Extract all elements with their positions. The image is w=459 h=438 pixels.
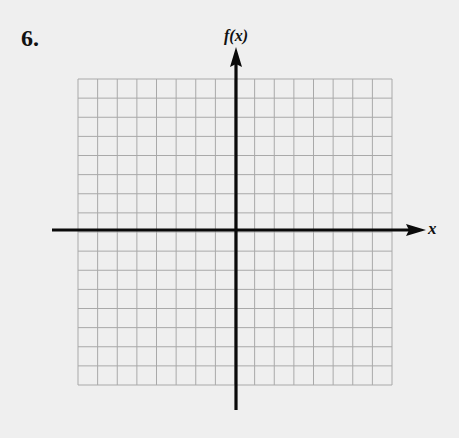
y-axis-arrow-icon (230, 47, 242, 67)
x-axis (52, 224, 426, 236)
x-axis-arrow-icon (406, 224, 426, 236)
coordinate-plane (0, 0, 459, 438)
